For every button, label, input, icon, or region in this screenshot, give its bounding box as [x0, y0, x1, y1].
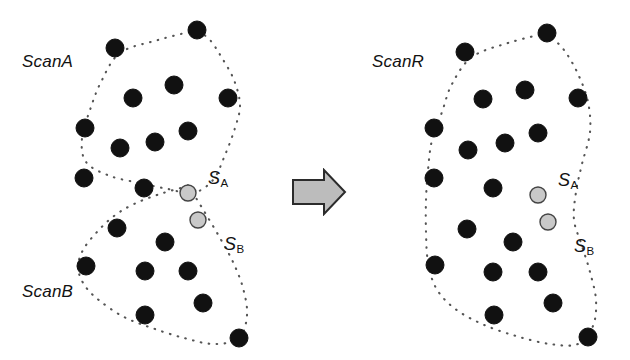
scan-boundary-scanb — [78, 185, 247, 344]
scan-b-label: ScanB — [22, 282, 73, 302]
scan-point — [529, 124, 547, 142]
scan-point — [579, 328, 597, 346]
scan-point — [425, 119, 443, 137]
scan-point — [108, 219, 126, 237]
scan-point — [484, 179, 502, 197]
scan-point — [538, 24, 556, 42]
scan-point — [474, 90, 492, 108]
right-sa-letter: S — [558, 170, 570, 190]
scan-point — [544, 294, 562, 312]
scan-merge-figure: ScanA ScanB SA SB ScanR SA SB — [0, 0, 630, 360]
highlighted-scan-point-s_b — [190, 212, 206, 228]
scan-point — [165, 76, 183, 94]
left-scan-panel: ScanA ScanB SA SB — [0, 0, 290, 360]
left-sb-letter: S — [224, 234, 236, 254]
scan-point — [124, 89, 142, 107]
scan-point — [136, 306, 154, 324]
scan-point — [77, 257, 95, 275]
arrow-shape — [291, 168, 347, 216]
scan-point — [484, 263, 502, 281]
scan-point — [516, 81, 534, 99]
highlighted-scan-point-s_a — [530, 187, 546, 203]
scan-point — [459, 141, 477, 159]
scan-point — [111, 139, 129, 157]
scan-point — [136, 262, 154, 280]
scan-point — [188, 21, 206, 39]
scan-point — [230, 329, 248, 347]
transform-arrow — [291, 168, 347, 216]
left-sa-subscript: A — [221, 177, 229, 189]
scan-point — [485, 306, 503, 324]
left-sb-subscript: B — [237, 243, 245, 255]
left-point-sa-label: SA — [208, 168, 228, 189]
scan-point — [425, 169, 443, 187]
scan-point — [156, 233, 174, 251]
scan-point — [106, 39, 124, 57]
scan-point — [458, 220, 476, 238]
scan-r-label: ScanR — [372, 52, 424, 72]
left-point-sb-label: SB — [224, 234, 244, 255]
right-merged-scan-panel: ScanR SA SB — [350, 0, 630, 360]
scan-point — [194, 294, 212, 312]
right-point-sa-label: SA — [558, 170, 578, 191]
highlighted-scan-point-s_b — [540, 214, 556, 230]
scan-point — [146, 133, 164, 151]
highlighted-scan-point-s_a — [180, 185, 196, 201]
scan-point — [529, 263, 547, 281]
scan-point — [504, 233, 522, 251]
scan-point — [135, 179, 153, 197]
scan-a-label: ScanA — [22, 52, 73, 72]
scan-point — [75, 169, 93, 187]
scan-point — [426, 256, 444, 274]
right-sb-letter: S — [574, 236, 586, 256]
right-sb-subscript: B — [587, 245, 595, 257]
left-sa-letter: S — [208, 168, 220, 188]
arrow-polygon — [293, 170, 345, 214]
scan-point — [496, 134, 514, 152]
scan-point — [76, 119, 94, 137]
scan-point — [456, 43, 474, 61]
right-sa-subscript: A — [571, 179, 579, 191]
scan-point — [219, 89, 237, 107]
right-point-sb-label: SB — [574, 236, 594, 257]
scan-point — [569, 89, 587, 107]
scan-point — [179, 262, 197, 280]
scan-point — [179, 122, 197, 140]
